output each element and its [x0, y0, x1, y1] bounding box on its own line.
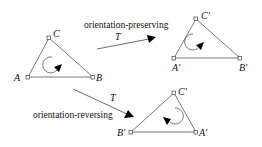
reversing-transform: T orientation-reversing	[33, 89, 134, 120]
label-c: C	[53, 28, 60, 39]
rotation-arc-icon	[185, 34, 198, 50]
vertex-c-prime	[172, 91, 176, 95]
arrowhead-icon	[147, 35, 156, 43]
vertex-c-prime	[194, 17, 198, 21]
preserved-triangle: C′ A′ B′	[171, 10, 248, 73]
reversed-triangle: C′ B′ A′	[117, 86, 208, 138]
label-b-prime: B′	[117, 127, 126, 138]
triangle-preserved-edges	[174, 19, 240, 58]
label-a-prime: A′	[198, 127, 208, 138]
rotation-arc-icon	[170, 108, 183, 124]
vertex-c	[47, 36, 51, 40]
vertex-a-prime	[194, 131, 198, 135]
rotation-arrowhead-icon	[163, 117, 171, 125]
caption-reversing: orientation-reversing	[33, 110, 113, 120]
label-c-prime: C′	[178, 86, 188, 97]
original-triangle: C A B	[13, 28, 102, 83]
triangle-reversed-edges	[131, 93, 196, 132]
label-a-prime: A′	[171, 62, 181, 73]
vertex-a	[26, 76, 30, 80]
vertex-b	[91, 76, 95, 80]
transform-arrow-preserving	[97, 39, 149, 49]
rotation-arc-icon	[43, 57, 57, 73]
triangle-abc-edges	[28, 38, 93, 77]
rotation-arrowhead-icon	[54, 64, 62, 72]
arrowhead-icon	[124, 110, 134, 118]
label-a: A	[13, 72, 21, 83]
preserving-transform: orientation-preserving T	[84, 20, 169, 49]
transform-label-preserving: T	[115, 31, 122, 42]
vertex-a-prime	[172, 57, 176, 61]
vertex-b-prime	[238, 57, 242, 61]
transform-label-reversing: T	[110, 92, 117, 103]
vertex-b-prime	[129, 131, 133, 135]
caption-preserving: orientation-preserving	[84, 20, 169, 30]
label-b-prime: B′	[239, 62, 248, 73]
label-b: B	[96, 72, 102, 83]
label-c-prime: C′	[201, 10, 211, 21]
orientation-diagram: C A B orientation-preserving T C′ A′ B′ …	[0, 0, 262, 147]
